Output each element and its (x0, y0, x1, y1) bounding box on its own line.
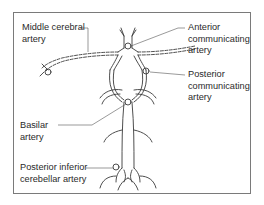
label-posterior-inferior-cerebellar-artery: Posterior inferior cerebellar artery (20, 162, 87, 185)
label-posterior-communicating-artery: Posterior communicating artery (188, 69, 250, 104)
label-middle-cerebral-artery: Middle cerebral artery (22, 22, 85, 45)
label-anterior-communicating-artery: Anterior communicating artery (188, 22, 250, 57)
label-basilar-artery: Basilar artery (20, 120, 48, 143)
